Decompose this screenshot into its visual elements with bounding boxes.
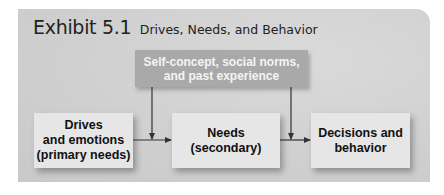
drives-line-2: and emotions — [37, 133, 131, 148]
exhibit-title: Exhibit 5.1 Drives, Needs, and Behavior — [33, 16, 318, 38]
exhibit-number: Exhibit 5.1 — [33, 16, 131, 38]
drives-box: Drives and emotions (primary needs) — [34, 113, 133, 168]
decisions-box: Decisions and behavior — [311, 113, 410, 168]
needs-box: Needs (secondary) — [172, 113, 280, 168]
decisions-line-2: behavior — [318, 141, 403, 156]
needs-line-2: (secondary) — [191, 141, 262, 156]
drives-line-3: (primary needs) — [37, 148, 131, 163]
influence-box: Self-concept, social norms, and past exp… — [135, 50, 308, 87]
influence-line-1: Self-concept, social norms, — [143, 55, 299, 69]
exhibit-caption: Drives, Needs, and Behavior — [140, 22, 318, 37]
needs-line-1: Needs — [191, 126, 262, 141]
drives-line-1: Drives — [37, 118, 131, 133]
decisions-line-1: Decisions and — [318, 126, 403, 141]
influence-line-2: and past experience — [143, 69, 299, 83]
